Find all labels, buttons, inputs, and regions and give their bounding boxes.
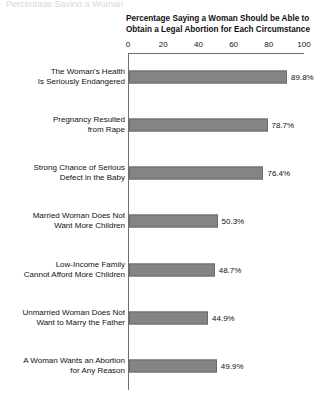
bar-row: Married Woman Does NotWant More Children… (0, 197, 323, 245)
x-axis-tick-20: 20 (159, 40, 168, 49)
bar (129, 167, 263, 180)
category-label-line: Want to Marry the Father (5, 318, 125, 328)
bar (129, 311, 208, 324)
bar-value-label: 89.8% (291, 73, 314, 82)
bar (129, 119, 268, 132)
bar (129, 263, 215, 276)
chart-title-line-2: Obtain a Legal Abortion for Each Circums… (126, 25, 318, 36)
x-axis-tick-80: 80 (264, 40, 273, 49)
bar-value-label: 50.3% (222, 217, 245, 226)
x-axis-tick-40: 40 (194, 40, 203, 49)
bar-value-label: 76.4% (267, 169, 290, 178)
category-label-line: The Woman's Health (5, 67, 125, 77)
category-label-line: Is Seriously Endangered (5, 77, 125, 87)
chart-title: Percentage Saying a Woman Should be Able… (126, 14, 318, 35)
category-label-line: Low-Income Family (5, 260, 125, 270)
bar-row: A Woman Wants an Abortionfor Any Reason4… (0, 342, 323, 390)
bar-chart: Percentage Saying a Woman Should be Able… (0, 0, 323, 400)
x-axis-tick-0: 0 (126, 40, 130, 49)
bar-row: Pregnancy Resultedfrom Rape78.7% (0, 101, 323, 149)
bar-row: Strong Chance of SeriousDefect in the Ba… (0, 149, 323, 197)
chart-title-line-1: Percentage Saying a Woman Should be Able… (126, 14, 318, 25)
category-label-line: Married Woman Does Not (5, 211, 125, 221)
bar-value-label: 49.9% (221, 361, 244, 370)
bar-value-label: 48.7% (219, 265, 242, 274)
bar-value-label: 78.7% (272, 121, 295, 130)
category-label: The Woman's HealthIs Seriously Endangere… (5, 67, 125, 87)
x-axis-tick-100: 100 (297, 40, 310, 49)
category-label-line: A Woman Wants an Abortion (5, 356, 125, 366)
category-label-line: for Any Reason (5, 366, 125, 376)
category-label: Strong Chance of SeriousDefect in the Ba… (5, 163, 125, 183)
category-label-line: Defect in the Baby (5, 173, 125, 183)
category-label-line: Pregnancy Resulted (5, 115, 125, 125)
bar (129, 71, 287, 84)
bar-row: Unmarried Woman Does NotWant to Marry th… (0, 294, 323, 342)
category-label: Low-Income FamilyCannot Afford More Chil… (5, 260, 125, 280)
category-label: Unmarried Woman Does NotWant to Marry th… (5, 308, 125, 328)
category-label-line: Strong Chance of Serious (5, 163, 125, 173)
bar-row: The Woman's HealthIs Seriously Endangere… (0, 53, 323, 101)
x-axis-tick-60: 60 (229, 40, 238, 49)
category-label: Married Woman Does NotWant More Children (5, 211, 125, 231)
bar (129, 215, 218, 228)
category-label: Pregnancy Resultedfrom Rape (5, 115, 125, 135)
bar (129, 359, 217, 372)
category-label-line: from Rape (5, 125, 125, 135)
category-label-line: Cannot Afford More Children (5, 270, 125, 280)
bar-row: Low-Income FamilyCannot Afford More Chil… (0, 246, 323, 294)
category-label: A Woman Wants an Abortionfor Any Reason (5, 356, 125, 376)
bar-value-label: 44.9% (212, 313, 235, 322)
chart-plot-area: The Woman's HealthIs Seriously Endangere… (0, 53, 323, 390)
x-axis-tick-labels: 020406080100 (0, 40, 323, 52)
category-label-line: Want More Children (5, 221, 125, 231)
category-label-line: Unmarried Woman Does Not (5, 308, 125, 318)
